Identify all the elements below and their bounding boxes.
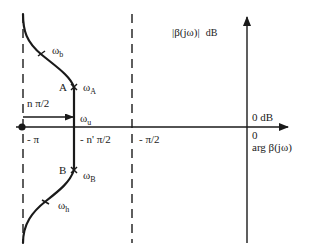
point-b-label: B [59, 164, 66, 176]
omega-u-label: ωu [80, 112, 91, 127]
minus-n-prime-pi-half-label: - n' π/2 [80, 133, 111, 145]
omega-b-upper-label: ωB [83, 169, 96, 184]
phase-axis-label: arg β(jω) [252, 141, 292, 154]
n-pi-half-label: n π/2 [27, 97, 49, 109]
gain-axis-label: |β(jω)|dB [172, 26, 218, 39]
omega-a-label: ωA [83, 81, 96, 96]
zero-db-label: 0 dB [252, 111, 273, 123]
critical-point-dot [18, 123, 25, 130]
omega-b-label: ωb [52, 44, 63, 59]
omega-h-label: ωh [58, 199, 69, 214]
point-a-label: A [59, 81, 67, 93]
minus-pi-half-label: - π/2 [139, 133, 160, 145]
zero-phase-label: 0 [252, 129, 258, 141]
minus-pi-label: - π [27, 133, 39, 145]
nichols-diagram: n π/2 |β(jω)|dB 0 dB 0 arg β(jω) - π - n… [0, 0, 312, 252]
